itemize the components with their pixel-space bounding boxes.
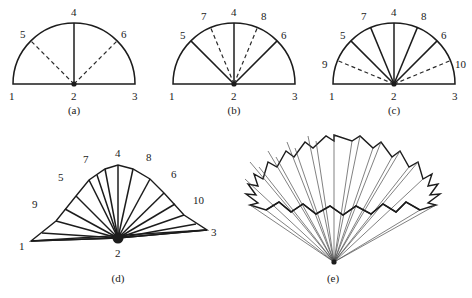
panel-e-fan-body [245,135,440,262]
panel-d-hub [113,233,124,244]
panel-b-hub [231,81,236,86]
panel-c-label-7: 7 [361,10,367,22]
panel-b-fold-8 [234,28,257,84]
panel-a-label-1: 1 [9,90,15,102]
figure-root: 1 2 3 4 5 6 (a) 1 2 3 4 5 6 7 8 (b) [0,0,472,298]
panel-b-caption: (b) [228,104,241,117]
panel-d: 1 2 3 4 5 6 7 8 9 10 (d) [0,125,236,298]
panel-b-label-8: 8 [261,10,267,22]
panel-a-fold-6 [74,41,117,84]
panel-b-fold-7 [211,28,234,84]
panel-d-label-5: 5 [58,171,64,183]
panel-c-label-9: 9 [322,58,328,70]
panel-c-label-8: 8 [421,10,427,22]
panel-e-fold-r11 [334,210,420,262]
panel-e-fold-r10 [334,205,436,262]
panel-b-label-4: 4 [231,6,237,18]
panel-b-label-1: 1 [169,90,175,102]
panel-a-hub [71,81,76,86]
panel-c: 1 2 3 4 5 6 7 8 9 10 (c) [320,0,472,120]
panel-d-caption: (d) [112,272,125,285]
panel-e: (e) [236,125,472,298]
panel-c-label-10: 10 [455,58,467,70]
panel-b-label-7: 7 [201,10,207,22]
panel-a-caption: (a) [68,104,81,117]
panel-d-label-1: 1 [19,240,25,252]
panel-c-label-2: 2 [391,90,397,102]
panel-c-caption: (c) [388,104,401,117]
panel-d-label-8: 8 [146,151,152,163]
panel-a-label-2: 2 [71,90,77,102]
panel-a-label-3: 3 [132,90,138,102]
panel-d-label-9: 9 [32,198,38,210]
panel-a: 1 2 3 4 5 6 (a) [0,0,160,120]
panel-b: 1 2 3 4 5 6 7 8 (b) [160,0,320,120]
panel-a-label-5: 5 [20,28,26,40]
panel-c-label-4: 4 [391,6,397,18]
panel-c-radius-6 [394,41,437,84]
panel-b-label-6: 6 [281,29,287,41]
panel-b-radius-5 [191,41,234,84]
panel-c-label-6: 6 [441,29,447,41]
panel-b-label-5: 5 [180,29,186,41]
panel-c-radius-5 [351,41,394,84]
panel-a-fold-5 [31,41,74,84]
panel-d-label-2: 2 [115,247,121,259]
panel-d-label-3: 3 [211,226,217,238]
panel-c-label-3: 3 [452,90,458,102]
panel-e-apex [331,259,336,264]
panel-b-radius-6 [234,41,277,84]
panel-d-label-10: 10 [193,194,205,206]
panel-d-label-7: 7 [83,153,89,165]
panel-e-caption: (e) [327,272,340,285]
panel-c-hub [391,81,396,86]
panel-c-label-1: 1 [329,90,335,102]
panel-d-label-4: 4 [115,147,121,159]
panel-d-label-6: 6 [171,168,177,180]
panel-b-label-2: 2 [231,90,237,102]
panel-b-label-3: 3 [292,90,298,102]
panel-c-label-5: 5 [340,29,346,41]
panel-e-fold-l10 [250,205,334,262]
panel-a-label-4: 4 [71,6,77,18]
panel-a-label-6: 6 [121,28,127,40]
